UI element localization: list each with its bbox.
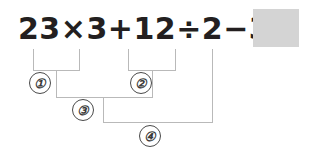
worksheet-problem: 23 × 3 + 1 2 ÷ 2 − 3 = ① ② ③ ④ [0,0,318,160]
step-marker-2: ② [130,72,152,94]
bracket-4-span [103,122,213,123]
operand-3a: 3 [86,11,107,46]
operand-12-ones: 2 [155,11,176,46]
step-marker-4: ④ [139,125,161,147]
operand-12-tens: 1 [133,11,154,46]
bracket-4-right-tick [212,49,213,123]
bracket-1-right-tick [79,49,80,71]
operand-23: 23 [18,11,61,46]
answer-input-box[interactable] [253,9,299,47]
bracket-3-right-tick [152,70,153,98]
bracket-2-right-tick [175,49,176,71]
step-marker-3: ③ [72,99,94,121]
bracket-4-left-tick [103,97,104,123]
step-marker-1: ① [29,72,51,94]
bracket-3-left-tick [56,70,57,98]
bracket-2-left-tick [128,49,129,71]
operand-2: 2 [202,11,223,46]
bracket-3-span [56,97,153,98]
divide-operator: ÷ [176,11,202,46]
plus-operator: + [108,11,134,46]
multiply-operator: × [61,11,87,46]
minus-operator: − [223,11,249,46]
bracket-1-left-tick [33,49,34,71]
